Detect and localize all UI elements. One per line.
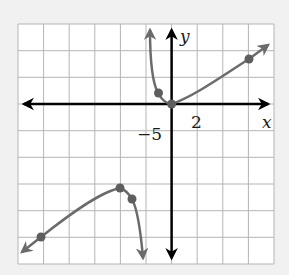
point-neg3-neg19	[128, 195, 137, 204]
y-tick-label: −5	[137, 124, 162, 144]
point-neg10-neg25	[37, 233, 46, 242]
y-axis-label: y	[179, 26, 190, 46]
chart: y x 2 −5	[0, 0, 289, 275]
point-neg4-neg16	[116, 184, 125, 193]
point-origin	[167, 100, 176, 109]
point-neg1-2	[154, 89, 163, 98]
point-6-9	[245, 55, 254, 64]
x-axis-label: x	[262, 112, 272, 132]
x-tick-label: 2	[191, 112, 202, 132]
